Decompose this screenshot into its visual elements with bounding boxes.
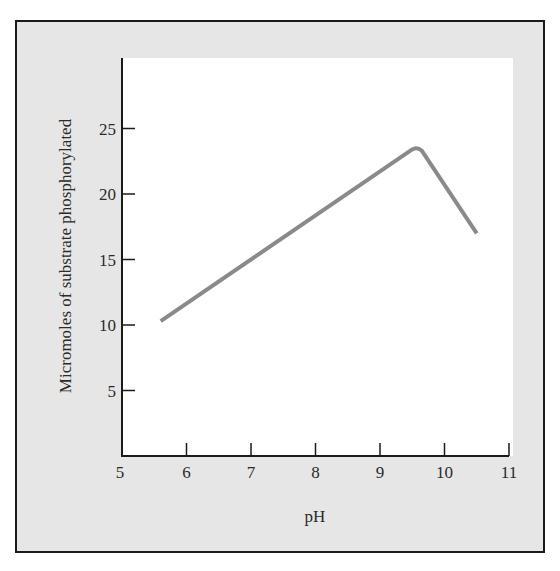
x-tick-label: 5 xyxy=(116,463,125,482)
x-tick-label: 10 xyxy=(436,463,453,482)
y-tick-label: 25 xyxy=(99,120,116,139)
x-tick-label: 6 xyxy=(182,463,191,482)
plot-area xyxy=(123,58,513,456)
y-tick-label: 15 xyxy=(99,251,116,270)
x-tick-label: 8 xyxy=(311,463,320,482)
x-tick-label: 11 xyxy=(501,463,517,482)
chart: 567891011510152025 pH Micromoles of subs… xyxy=(0,0,560,571)
x-tick-label: 7 xyxy=(247,463,256,482)
x-axis-label: pH xyxy=(305,507,326,526)
y-tick-label: 10 xyxy=(99,316,116,335)
y-tick-label: 5 xyxy=(108,382,117,401)
y-axis-label: Micromoles of substrate phosphorylated xyxy=(56,118,75,393)
x-tick-label: 9 xyxy=(376,463,385,482)
y-tick-label: 20 xyxy=(99,185,116,204)
